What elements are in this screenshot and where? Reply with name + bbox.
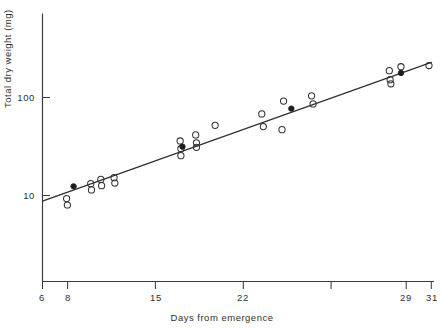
- y-tick-label-10: 10: [8, 190, 35, 201]
- x-tick-label-6: 6: [39, 292, 45, 303]
- regression-line: [43, 62, 432, 201]
- data-point-open: [64, 202, 70, 208]
- data-point-mean: [398, 70, 403, 75]
- data-point-open: [88, 187, 94, 193]
- data-point-open: [308, 93, 314, 99]
- data-point-open: [177, 138, 183, 144]
- x-tick-label-31: 31: [426, 292, 438, 303]
- data-point-open: [279, 127, 285, 133]
- data-point-open: [386, 68, 392, 74]
- data-point-mean: [180, 144, 185, 149]
- figure-container: 100 10 6 8 15 22 29 31 Total dry weight …: [0, 0, 444, 329]
- y-axis-ticks: [43, 98, 51, 196]
- data-point-open: [64, 195, 70, 201]
- x-tick-label-29: 29: [400, 292, 412, 303]
- data-point-open: [280, 98, 286, 104]
- x-tick-label-15: 15: [150, 292, 162, 303]
- data-point-open: [193, 132, 199, 138]
- y-axis-label: Total dry weight (mg): [2, 0, 13, 108]
- data-point-open: [260, 123, 266, 129]
- data-point-open: [388, 81, 394, 87]
- filled-circle-points: [71, 70, 404, 189]
- x-tick-label-22: 22: [237, 292, 249, 303]
- open-circle-points: [64, 62, 433, 208]
- data-point-open: [212, 122, 218, 128]
- scatter-plot-canvas: [0, 0, 444, 329]
- x-axis-ticks: [43, 282, 432, 290]
- data-point-open: [178, 153, 184, 159]
- data-point-open: [99, 183, 105, 189]
- data-point-mean: [71, 184, 76, 189]
- x-tick-label-8: 8: [65, 292, 71, 303]
- data-point-open: [398, 64, 404, 70]
- x-axis-label: Days from emergence: [0, 312, 444, 323]
- data-point-open: [259, 111, 265, 117]
- data-point-mean: [289, 106, 294, 111]
